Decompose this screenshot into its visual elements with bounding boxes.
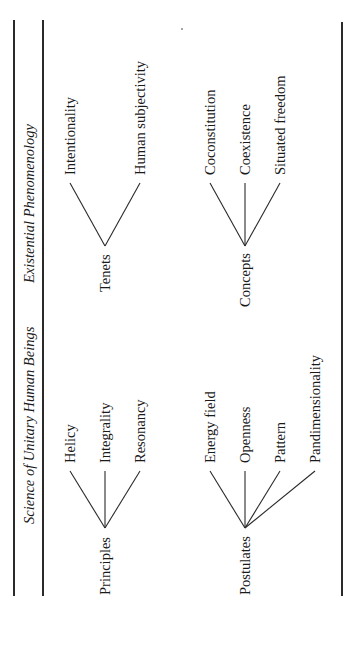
root-tenets: Tenets bbox=[97, 254, 113, 292]
concepts-tree: Concepts Coconstitution Coexistence Situ… bbox=[202, 75, 288, 307]
child-energy-field: Energy field bbox=[202, 390, 218, 463]
child-situated-freedom: Situated freedom bbox=[272, 75, 288, 175]
root-principles: Principles bbox=[97, 537, 113, 595]
child-resonancy: Resonancy bbox=[132, 399, 148, 463]
child-helicy: Helicy bbox=[62, 424, 78, 463]
postulates-tree: Postulates Energy field Openness Pattern… bbox=[202, 354, 323, 595]
comparison-diagram: Existential Phenomenology Science of Uni… bbox=[0, 0, 360, 653]
header-existential-phenomenology: Existential Phenomenology bbox=[21, 123, 37, 284]
tenets-tree: Tenets Intentionality Human subjectivity bbox=[62, 60, 148, 292]
speck bbox=[181, 28, 183, 30]
child-human-subjectivity: Human subjectivity bbox=[132, 60, 148, 175]
root-postulates: Postulates bbox=[237, 536, 253, 595]
principles-tree: Principles Helicy Integrality Resonancy bbox=[62, 399, 148, 595]
child-coconstitution: Coconstitution bbox=[202, 89, 218, 175]
root-concepts: Concepts bbox=[237, 253, 253, 307]
child-pattern: Pattern bbox=[272, 421, 288, 463]
child-openness: Openness bbox=[237, 406, 253, 463]
child-coexistence: Coexistence bbox=[237, 104, 253, 175]
child-intentionality: Intentionality bbox=[62, 96, 78, 175]
header-science-unitary-human-beings: Science of Unitary Human Beings bbox=[21, 326, 37, 524]
child-pandimensionality: Pandimensionality bbox=[307, 354, 323, 463]
child-integrality: Integrality bbox=[97, 402, 113, 463]
